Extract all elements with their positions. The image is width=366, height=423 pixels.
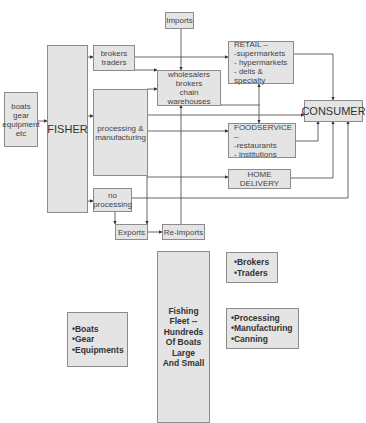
imports-box: Imports <box>165 12 194 29</box>
imports-label: Imports <box>166 16 193 25</box>
retail-box: RETAIL – -supermarkets - hypermarkets - … <box>228 41 294 84</box>
retail-label: RETAIL – -supermarkets - hypermarkets - … <box>234 40 293 85</box>
brokers-legend-box: •Brokers •Traders <box>226 252 278 283</box>
brokers-legend-label: •Brokers •Traders <box>234 257 269 278</box>
home-delivery-box: HOME DELIVERY <box>228 169 291 189</box>
foodservice-label: FOODSERVICE – -restaurants - institution… <box>234 123 295 159</box>
wholesalers-label: wholesalers brokers chain warehouses <box>158 70 220 106</box>
wholesalers-box: wholesalers brokers chain warehouses <box>157 70 221 106</box>
foodservice-box: FOODSERVICE – -restaurants - institution… <box>228 123 296 158</box>
no-processing-label: no processing <box>93 191 132 209</box>
exports-box: Exports <box>115 224 148 240</box>
processing-legend-label: •Processing •Manufacturing •Canning <box>231 313 293 345</box>
boats-gear-label: boats gear equipment etc <box>2 102 39 138</box>
brokers-traders-label: brokers traders <box>101 49 128 67</box>
fisher-box: FISHER <box>47 45 88 213</box>
processing-box: processing & manufacturing <box>93 89 148 176</box>
processing-label: processing & manufacturing <box>95 124 146 142</box>
boats-legend-box: •Boats •Gear •Equipments <box>67 312 128 367</box>
processing-legend-box: •Processing •Manufacturing •Canning <box>226 308 299 349</box>
fisher-label: FISHER <box>47 125 87 134</box>
fishing-fleet-box: Fishing Fleet -- Hundreds Of Boats Large… <box>157 251 210 423</box>
no-processing-box: no processing <box>93 188 132 212</box>
exports-label: Exports <box>118 228 145 237</box>
brokers-traders-box: brokers traders <box>93 45 135 71</box>
consumer-box: CONSUMER <box>304 100 363 122</box>
consumer-label: CONSUMER <box>301 107 365 116</box>
boats-gear-box: boats gear equipment etc <box>4 92 38 147</box>
reimports-box: Re-Imports <box>162 224 205 240</box>
home-delivery-label: HOME DELIVERY <box>229 170 290 188</box>
boats-legend-label: •Boats •Gear •Equipments <box>72 324 124 356</box>
reimports-label: Re-Imports <box>164 228 204 237</box>
fishing-fleet-label: Fishing Fleet -- Hundreds Of Boats Large… <box>163 306 205 369</box>
